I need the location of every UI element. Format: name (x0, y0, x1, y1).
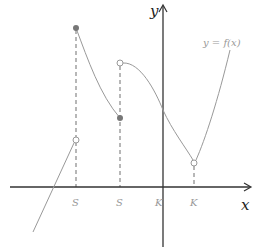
open-dot-3 (191, 160, 197, 166)
function-label: y = f(x) (202, 37, 241, 48)
function-graph: y x y = f(x) S S K K (0, 0, 262, 249)
curve-segment-2 (123, 63, 193, 160)
curve-segment-3 (196, 50, 230, 160)
tick-label-k2: K (189, 197, 198, 208)
tick-label-s2: S (116, 197, 123, 208)
x-axis-label: x (241, 196, 250, 214)
open-dot-2 (73, 137, 79, 143)
curve-segment-1 (76, 28, 120, 118)
closed-dot-1 (73, 25, 79, 31)
y-axis-label: y (149, 2, 159, 20)
tick-label-s1: S (72, 197, 79, 208)
tick-label-k1: K (154, 197, 163, 208)
closed-dot-2 (117, 115, 123, 121)
open-dot-1 (117, 60, 123, 66)
